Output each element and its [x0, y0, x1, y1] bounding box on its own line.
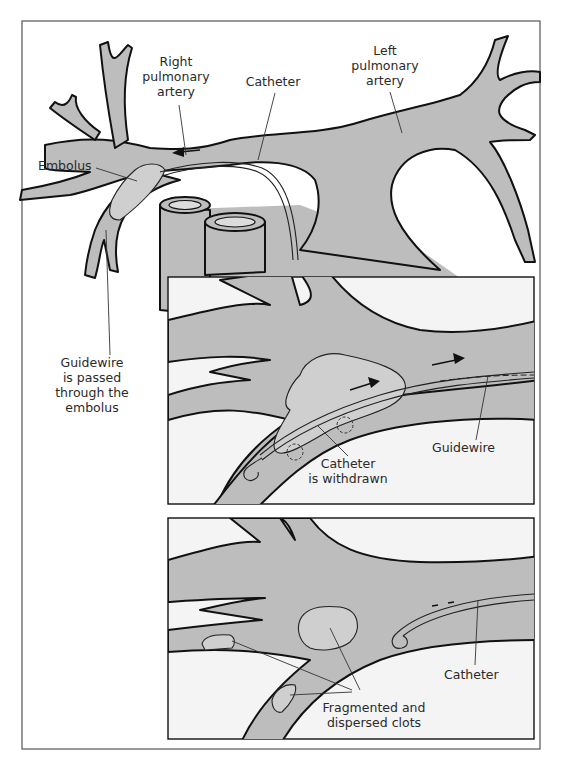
clot-fragment-1 [298, 606, 357, 650]
svg-text:Catheter: Catheter [444, 667, 499, 682]
svg-text:embolus: embolus [65, 400, 118, 415]
svg-text:Catheter: Catheter [246, 74, 301, 89]
svg-text:dispersed clots: dispersed clots [327, 715, 421, 730]
svg-text:Right: Right [160, 54, 193, 69]
svg-text:through the: through the [55, 385, 129, 400]
svg-text:Embolus: Embolus [38, 158, 92, 173]
svg-text:Guidewire: Guidewire [61, 355, 124, 370]
svg-text:Guidewire: Guidewire [432, 440, 495, 455]
middle-panel: Guidewire Catheter is withdrawn [168, 260, 540, 510]
pulmonary-embolus-fragmentation-diagram: Right pulmonary artery Catheter Left pul… [0, 0, 561, 773]
svg-text:artery: artery [366, 73, 405, 88]
svg-text:is withdrawn: is withdrawn [308, 471, 387, 486]
svg-text:Catheter: Catheter [321, 456, 376, 471]
bottom-panel: Catheter Fragmented and dispersed clots [168, 518, 540, 745]
svg-text:Fragmented and: Fragmented and [323, 700, 426, 715]
svg-text:artery: artery [157, 84, 196, 99]
svg-text:pulmonary: pulmonary [351, 58, 419, 73]
svg-text:pulmonary: pulmonary [142, 69, 210, 84]
svg-text:Left: Left [373, 43, 397, 58]
svg-text:is passed: is passed [63, 370, 121, 385]
